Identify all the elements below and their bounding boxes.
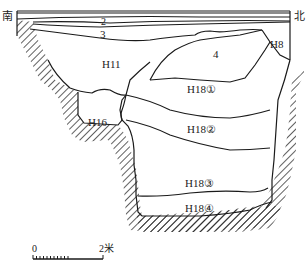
scale-start-label: 0 <box>32 243 37 254</box>
scale-end-label: 2米 <box>99 242 114 254</box>
layer-3-label: 3 <box>100 28 106 40</box>
feature-h18-1-label: H18① <box>187 83 216 95</box>
direction-north-label: 北 <box>294 10 305 22</box>
feature-h18-2-label: H18② <box>187 123 216 135</box>
layer-2-label: 2 <box>101 16 106 27</box>
layer-4-label: 4 <box>213 48 219 60</box>
feature-h11-label: H11 <box>102 58 121 70</box>
scale-bar: 0 2米 <box>32 242 114 259</box>
stratigraphic-layers <box>17 11 290 216</box>
direction-south-label: 南 <box>2 10 13 22</box>
feature-h8-label: H8 <box>270 38 284 50</box>
natural-soil-hatching <box>17 20 304 232</box>
feature-h16-label: H16 <box>88 116 107 128</box>
feature-h18-4-label: H18④ <box>185 202 214 214</box>
feature-h18-3-label: H18③ <box>185 177 214 189</box>
section-drawing: 南 北 2 3 4 H8 H11 H16 H18① H18② H18③ H18④… <box>0 0 308 266</box>
